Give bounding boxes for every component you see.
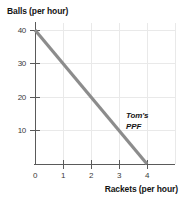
gridline-horizontal: [35, 130, 175, 131]
x-axis-tick-label: 1: [55, 171, 71, 180]
y-axis-tick: [30, 63, 40, 64]
y-axis-line: [35, 22, 36, 165]
x-axis-tick: [91, 160, 92, 169]
gridline-vertical: [91, 23, 92, 164]
y-axis-tick-label: 40: [6, 26, 26, 35]
annotation-line-2: PPF: [126, 121, 148, 132]
annotation-line-1: Tom's: [126, 110, 148, 121]
y-axis-tick: [30, 130, 40, 131]
x-axis-tick: [63, 160, 64, 169]
y-axis-tick-label: 20: [6, 93, 26, 102]
series-annotation-toms-ppf: Tom's PPF: [126, 110, 148, 132]
gridline-vertical: [175, 23, 176, 164]
x-axis-tick-label: 2: [83, 171, 99, 180]
plot-area: [35, 23, 175, 164]
y-axis-tick-label: 10: [6, 126, 26, 135]
x-axis-tick-label: 4: [139, 171, 155, 180]
x-axis-tick: [119, 160, 120, 169]
gridline-vertical: [119, 23, 120, 164]
gridline-horizontal: [35, 63, 175, 64]
y-axis-title: Balls (per hour): [7, 6, 68, 16]
x-axis-tick: [147, 160, 148, 169]
x-axis-tick-label: 0: [27, 171, 43, 180]
x-axis-title: Rackets (per hour): [105, 184, 178, 194]
gridline-horizontal: [35, 97, 175, 98]
y-axis-tick-label: 30: [6, 59, 26, 68]
gridline-vertical: [63, 23, 64, 164]
x-axis-tick-label: 3: [111, 171, 127, 180]
chart-figure: Balls (per hour) 40 30 20 10 0 1 2 3 4 T…: [0, 0, 182, 198]
gridline-horizontal: [35, 30, 175, 31]
y-axis-tick: [30, 97, 40, 98]
gridline-vertical: [147, 23, 148, 164]
y-axis-tick: [30, 30, 40, 31]
x-axis-line: [34, 164, 175, 165]
